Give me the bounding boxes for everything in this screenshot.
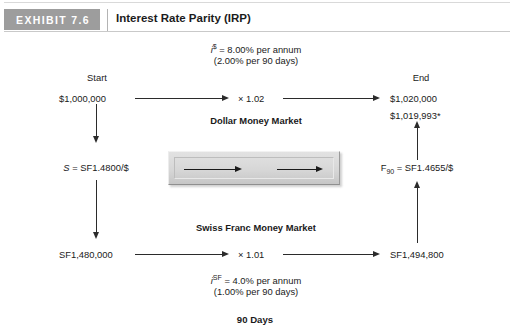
arrow-line-forward-up [417,128,418,160]
spot-rate-text: = SF1.4800/$ [70,162,129,173]
timeline-arrow-line-left [184,169,236,170]
arrow-head-chf-right [373,251,380,257]
arrow-head-chf-left [222,251,229,257]
value-end-chf: SF1,494,800 [390,249,444,260]
column-header-end: End [413,72,430,83]
label-spot-rate: S = SF1.4800/$ [63,162,128,173]
arrow-line-chf-down [96,180,97,233]
timeline-label: 90 Days [237,314,273,325]
label-swiss-franc-money-market: Swiss Franc Money Market [196,222,316,233]
value-end-usd-arbitrage: $1,019,993* [390,110,441,121]
arrow-line-chf-right [283,254,373,255]
arrow-line-usd-right [283,98,373,99]
arrow-head-usd-left [222,95,229,101]
value-start-usd: $1,000,000 [59,93,106,104]
forward-rate-subscript: 90 [386,168,394,175]
arrow-head-usd-right [373,95,380,101]
arrow-line-usd-left [135,98,222,99]
arrow-head-chf-down [93,232,99,239]
timeline-arrow-head-left [235,166,242,172]
column-header-start: Start [87,72,107,83]
header-rule [4,31,510,32]
arrow-head-forward-up [414,121,420,128]
value-usd-multiplier: × 1.02 [238,93,264,104]
top-rule [4,2,510,3]
value-chf-multiplier: × 1.01 [238,249,264,260]
arrow-line-chf-left [135,254,222,255]
arrow-head-spot-down [93,136,99,143]
header-divider [107,9,108,31]
dollar-rate-text: = 8.00% per annum [217,44,302,55]
label-forward-rate: F90 = SF1.4655/$ [381,162,454,175]
swiss-rate-annotation: iSF = 4.0% per annum [211,274,302,286]
value-start-chf: SF1,480,000 [59,249,113,260]
value-end-usd: $1,020,000 [390,93,437,104]
swiss-rate-text: = 4.0% per annum [222,275,301,286]
timeline-arrow-line-right [277,169,317,170]
arrow-line-spot-down [96,104,97,138]
timeline-box-inner-bevel [174,157,334,179]
arrow-line-chf-up [417,188,418,243]
swiss-rate-superscript: SF [213,274,222,281]
timeline-arrow-head-right [316,166,323,172]
swiss-period-annotation: (1.00% per 90 days) [214,286,298,297]
exhibit-header: EXHIBIT 7.6 Interest Rate Parity (IRP) [0,9,514,31]
page-title: Interest Rate Parity (IRP) [116,12,251,24]
label-dollar-money-market: Dollar Money Market [210,115,302,126]
arrow-head-chf-up [414,181,420,188]
dollar-rate-annotation: i$ = 8.00% per annum [211,43,302,55]
dollar-period-annotation: (2.00% per 90 days) [214,55,298,66]
exhibit-badge: EXHIBIT 7.6 [4,9,100,30]
forward-rate-text: = SF1.4655/$ [394,162,453,173]
timeline-box: 90 Days [168,151,340,185]
